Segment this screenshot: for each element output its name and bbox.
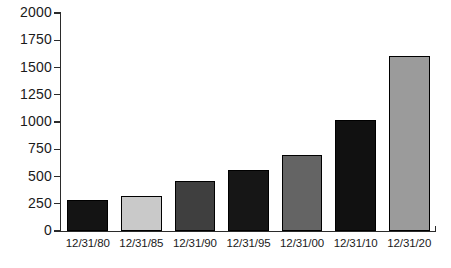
bar-chart: 025050075010001250150017502000 12/31/801… (0, 0, 451, 268)
bar[interactable] (228, 170, 269, 231)
y-tick-label: 2000 (4, 4, 52, 20)
y-tick-mark (54, 176, 61, 177)
y-tick-mark (54, 40, 61, 41)
y-axis-tick-labels: 025050075010001250150017502000 (0, 0, 52, 268)
x-tick-label: 12/31/95 (221, 237, 277, 249)
x-tick-label: 12/31/00 (274, 237, 330, 249)
y-tick-label: 1500 (4, 59, 52, 75)
y-tick-label: 1750 (4, 31, 52, 47)
y-tick-label: 1000 (4, 113, 52, 129)
bar[interactable] (175, 181, 216, 231)
bar[interactable] (389, 56, 430, 231)
y-tick-label: 750 (4, 140, 52, 156)
y-tick-label: 250 (4, 195, 52, 211)
x-tick-label: 12/31/20 (381, 237, 437, 249)
bar[interactable] (335, 120, 376, 231)
y-tick-label: 0 (4, 222, 52, 238)
x-tick-label: 12/31/85 (113, 237, 169, 249)
bar[interactable] (282, 155, 323, 231)
y-tick-label: 1250 (4, 86, 52, 102)
bar[interactable] (67, 200, 108, 231)
bars-layer (61, 13, 436, 231)
y-tick-mark (54, 12, 61, 13)
x-tick-label: 12/31/10 (328, 237, 384, 249)
bar[interactable] (121, 196, 162, 231)
y-tick-mark (54, 203, 61, 204)
y-tick-label: 500 (4, 168, 52, 184)
y-tick-mark (54, 94, 61, 95)
y-tick-mark (54, 230, 61, 231)
y-tick-mark (54, 149, 61, 150)
y-tick-mark (54, 121, 61, 122)
x-tick-label: 12/31/80 (60, 237, 116, 249)
x-axis-tick-labels: 12/31/8012/31/8512/31/9012/31/9512/31/00… (0, 237, 451, 257)
y-tick-mark (54, 67, 61, 68)
x-tick-label: 12/31/90 (167, 237, 223, 249)
